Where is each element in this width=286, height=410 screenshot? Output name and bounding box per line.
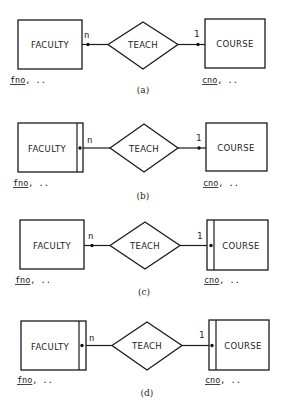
faculty-attributes: fno, .. xyxy=(13,178,49,188)
faculty-label: FACULTY xyxy=(28,144,66,154)
course-attributes: cno, .. xyxy=(202,75,238,85)
panel-b: FACULTY n TEACH 1 COURSE fno, .. cno, ..… xyxy=(13,123,267,201)
course-label: COURSE xyxy=(222,241,259,251)
right-cardinality: 1 xyxy=(197,231,202,241)
teach-label: TEACH xyxy=(127,40,158,50)
faculty-entity: FACULTY xyxy=(20,220,84,269)
faculty-attributes: fno, .. xyxy=(15,275,51,285)
faculty-entity: FACULTY xyxy=(18,123,83,172)
left-cardinality: n xyxy=(84,30,89,40)
course-label: COURSE xyxy=(224,341,261,351)
faculty-label: FACULTY xyxy=(31,342,69,352)
teach-relationship: TEACH xyxy=(110,222,180,269)
course-label: COURSE xyxy=(216,39,253,49)
course-key-attribute: cno xyxy=(203,178,218,188)
right-cardinality: 1 xyxy=(199,330,204,340)
course-key-attribute: cno xyxy=(205,375,220,385)
course-entity: COURSE xyxy=(205,19,265,68)
teach-relationship: TEACH xyxy=(108,22,178,69)
course-entity: COURSE xyxy=(206,123,267,171)
panel-caption: (a) xyxy=(137,85,149,95)
faculty-attributes: fno, .. xyxy=(10,75,46,85)
panel-caption: (c) xyxy=(138,287,150,297)
right-cardinality: 1 xyxy=(194,29,199,39)
participation-dot xyxy=(80,344,83,347)
participation-dot xyxy=(78,146,81,149)
course-entity: COURSE xyxy=(209,320,269,370)
faculty-key-attribute: fno xyxy=(15,275,30,285)
course-attributes: cno, .. xyxy=(203,178,239,188)
panel-a: FACULTY n TEACH 1 COURSE fno, .. cno, ..… xyxy=(10,19,265,95)
faculty-label: FACULTY xyxy=(31,40,69,50)
course-label: COURSE xyxy=(217,143,254,153)
left-cardinality: n xyxy=(89,333,94,343)
faculty-key-attribute: fno xyxy=(17,375,32,385)
faculty-key-attribute: fno xyxy=(13,178,28,188)
left-cardinality: n xyxy=(88,231,93,241)
teach-label: TEACH xyxy=(128,144,159,154)
teach-label: TEACH xyxy=(131,341,162,351)
participation-dot xyxy=(196,43,199,46)
faculty-entity: FACULTY xyxy=(18,20,82,69)
teach-relationship: TEACH xyxy=(110,124,178,172)
faculty-attributes: fno, .. xyxy=(17,375,53,385)
left-cardinality: n xyxy=(87,135,92,145)
er-diagram-svg: FACULTY n TEACH 1 COURSE fno, .. cno, ..… xyxy=(0,0,286,410)
participation-dot xyxy=(210,344,213,347)
teach-label: TEACH xyxy=(129,241,160,251)
course-entity: COURSE xyxy=(207,220,268,270)
er-diagram-figure: FACULTY n TEACH 1 COURSE fno, .. cno, ..… xyxy=(0,0,286,410)
panel-caption: (d) xyxy=(141,388,154,398)
right-cardinality: 1 xyxy=(196,133,201,143)
panel-c: FACULTY n TEACH 1 COURSE fno, .. cno, ..… xyxy=(15,220,268,297)
panel-d: FACULTY n TEACH 1 COURSE fno, .. cno, ..… xyxy=(17,320,269,398)
course-key-attribute: cno xyxy=(202,75,217,85)
faculty-entity: FACULTY xyxy=(21,321,86,370)
participation-dot xyxy=(209,244,212,247)
course-attributes: cno, .. xyxy=(205,375,241,385)
faculty-key-attribute: fno xyxy=(10,75,25,85)
participation-dot xyxy=(90,244,93,247)
teach-relationship: TEACH xyxy=(112,322,182,370)
participation-dot xyxy=(86,43,89,46)
faculty-label: FACULTY xyxy=(33,241,71,251)
participation-dot xyxy=(197,146,200,149)
course-attributes: cno, .. xyxy=(204,275,240,285)
course-key-attribute: cno xyxy=(204,275,219,285)
panel-caption: (b) xyxy=(137,191,150,201)
